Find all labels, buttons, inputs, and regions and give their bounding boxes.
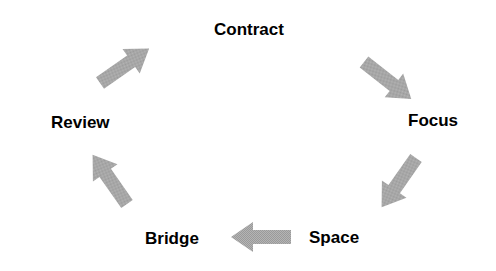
stage-space: Space [309, 228, 359, 248]
arrow-review-to-contract [91, 36, 157, 95]
stage-review: Review [51, 113, 110, 133]
arrow-focus-to-space [369, 149, 428, 215]
arrow-space-to-bridge [231, 222, 291, 252]
arrow-contract-to-focus [355, 50, 421, 111]
arrow-bridge-to-review [80, 146, 139, 212]
cycle-arrows [0, 0, 496, 271]
stage-bridge: Bridge [145, 229, 199, 249]
stage-contract: Contract [214, 20, 284, 40]
stage-focus: Focus [408, 111, 458, 131]
